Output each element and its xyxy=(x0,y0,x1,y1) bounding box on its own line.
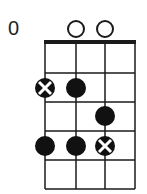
finger-dot-icon xyxy=(66,78,86,98)
x-dot-icon xyxy=(95,136,115,156)
nut xyxy=(44,40,136,44)
grid xyxy=(45,42,135,189)
finger-dot-icon xyxy=(66,136,86,156)
x-dot-icon xyxy=(35,78,55,98)
open-string-icon xyxy=(68,21,84,37)
finger-dot-icon xyxy=(95,106,115,126)
open-string-markers xyxy=(68,21,113,37)
open-string-icon xyxy=(97,21,113,37)
chord-diagram xyxy=(0,0,147,194)
finger-dots xyxy=(35,78,115,156)
finger-dot-icon xyxy=(35,136,55,156)
